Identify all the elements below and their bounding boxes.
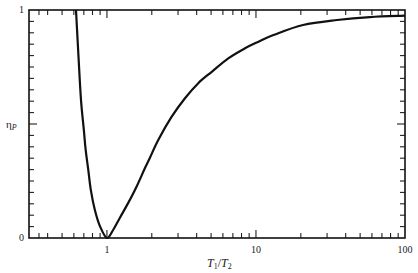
chart: 1 10 100 0 1 T1/T2 ηP [0, 0, 418, 273]
data-series [76, 10, 405, 238]
y-tick-label: 1 [19, 5, 24, 15]
y-axis-title-sub: P [12, 123, 17, 132]
x-axis-title-sub2: 2 [228, 262, 232, 271]
x-tick-label: 10 [251, 245, 261, 255]
plot-frame [29, 10, 405, 238]
y-tick-label: 0 [19, 233, 24, 243]
x-axis-title-t2: T [221, 256, 228, 270]
x-axis-title-t1: T [207, 256, 214, 270]
y-axis-title: ηP [6, 119, 17, 132]
axis-ticks [29, 10, 405, 238]
x-tick-label: 100 [398, 245, 413, 255]
x-axis-title: T1/T2 [207, 257, 232, 271]
x-tick-label: 1 [104, 245, 109, 255]
efficiency-curve [76, 10, 405, 238]
plot-area [0, 0, 418, 273]
